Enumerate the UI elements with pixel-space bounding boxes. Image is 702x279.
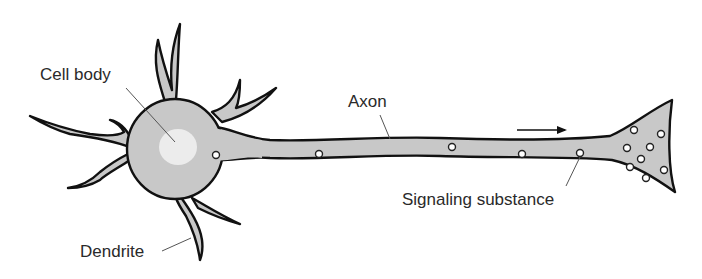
- dendrite-label: Dendrite: [80, 242, 144, 261]
- signal-direction-arrow-icon: [517, 126, 567, 134]
- axon-label: Axon: [348, 92, 387, 111]
- axon: [214, 100, 675, 192]
- signaling-substance-label: Signaling substance: [402, 190, 554, 209]
- signaling-substance-leader: [566, 157, 580, 186]
- neuron-diagram: Cell body Axon Signaling substance Dendr…: [0, 0, 702, 279]
- nucleus: [159, 129, 197, 165]
- cell-body-label: Cell body: [40, 65, 111, 84]
- dendrite-leader: [162, 238, 191, 251]
- axon-leader: [380, 115, 390, 139]
